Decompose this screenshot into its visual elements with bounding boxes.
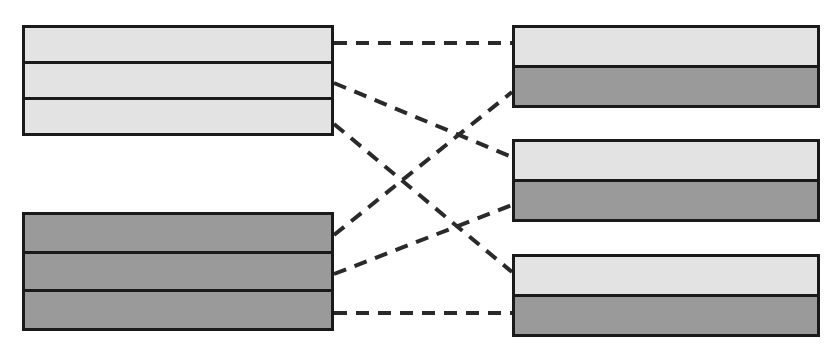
block-row-lt-r2 <box>25 61 331 97</box>
block-row-rb-r1 <box>515 257 817 294</box>
right-block-bottom <box>512 254 820 337</box>
left-block-bottom <box>22 212 334 331</box>
diagram-canvas <box>0 0 833 355</box>
block-row-rt-r2 <box>515 65 817 105</box>
connection-line-lt-r3-to-rb-r1 <box>334 124 512 272</box>
block-row-lt-r1 <box>25 28 331 61</box>
block-row-lb-r2 <box>25 251 331 290</box>
block-row-lt-r3 <box>25 97 331 133</box>
block-row-rb-r2 <box>515 294 817 334</box>
left-block-top <box>22 25 334 136</box>
connection-line-lb-r2-to-rm-r2 <box>334 205 512 274</box>
block-row-lb-r1 <box>25 215 331 251</box>
block-row-rm-r2 <box>515 179 817 219</box>
block-row-lb-r3 <box>25 289 331 328</box>
block-row-rm-r1 <box>515 142 817 179</box>
connection-line-lb-r1-to-rt-r2 <box>334 92 512 235</box>
right-block-middle <box>512 139 820 222</box>
block-row-rt-r1 <box>515 28 817 65</box>
connection-line-lt-r2-to-rm-r1 <box>334 83 512 157</box>
right-block-top <box>512 25 820 108</box>
